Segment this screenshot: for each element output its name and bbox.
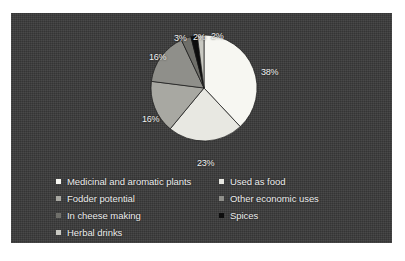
- slice-label-used-as-food-38: 38%: [261, 67, 278, 77]
- slice-label-3: 3%: [174, 33, 187, 43]
- legend-item[interactable]: Other economic uses: [219, 190, 319, 207]
- legend-item[interactable]: Medicinal and aromatic plants: [56, 173, 191, 190]
- legend-swatch-icon: [56, 196, 61, 201]
- slice-label-16-lower: 16%: [142, 114, 159, 124]
- legend-swatch-icon: [219, 196, 224, 201]
- legend-item-label: Other economic uses: [230, 193, 319, 204]
- legend-item-label: Used as food: [230, 176, 285, 187]
- legend-item-label: Fodder potential: [67, 193, 135, 204]
- slice-label-2-first: 2%: [193, 32, 206, 42]
- legend-item[interactable]: Herbal drinks: [56, 224, 191, 241]
- legend-swatch-icon: [219, 179, 224, 184]
- legend-item[interactable]: In cheese making: [56, 207, 191, 224]
- legend-item[interactable]: Fodder potential: [56, 190, 191, 207]
- legend-item-label: Spices: [230, 210, 258, 221]
- slice-label-23: 23%: [197, 158, 214, 168]
- legend-column-left: Medicinal and aromatic plantsFodder pote…: [56, 173, 191, 241]
- chart-legend: Medicinal and aromatic plantsFodder pote…: [56, 173, 386, 241]
- legend-swatch-icon: [219, 213, 224, 218]
- legend-item-label: In cheese making: [67, 210, 141, 221]
- legend-swatch-icon: [56, 179, 61, 184]
- slice-label-16-upper: 16%: [149, 52, 166, 62]
- slice-label-2-second: 2%: [211, 31, 224, 41]
- legend-swatch-icon: [56, 213, 61, 218]
- chart-panel: 38% 23% 16% 16% 3% 2% 2% Medicinal and a…: [11, 13, 392, 243]
- legend-column-right: Used as foodOther economic usesSpices: [219, 173, 319, 224]
- legend-item[interactable]: Spices: [219, 207, 319, 224]
- legend-item-label: Herbal drinks: [67, 227, 122, 238]
- legend-item[interactable]: Used as food: [219, 173, 319, 190]
- figure: 38% 23% 16% 16% 3% 2% 2% Medicinal and a…: [0, 0, 405, 261]
- legend-item-label: Medicinal and aromatic plants: [67, 176, 191, 187]
- legend-swatch-icon: [56, 230, 61, 235]
